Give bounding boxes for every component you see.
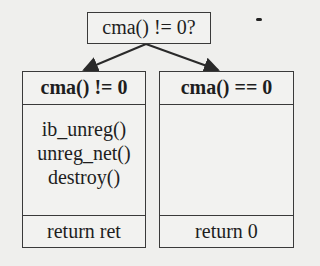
false-branch-header: cma() == 0 — [160, 72, 293, 105]
false-branch-body — [160, 105, 293, 216]
call-destroy: destroy() — [23, 165, 145, 189]
decision-node: cma() != 0? — [87, 12, 211, 44]
true-branch-footer: return ret — [23, 216, 145, 246]
true-branch-box: cma() != 0 ib_unreg() unreg_net() destro… — [22, 71, 146, 248]
ink-speck — [256, 18, 262, 21]
true-branch-header: cma() != 0 — [23, 72, 145, 105]
arrow-to-false-branch — [146, 44, 218, 70]
false-branch-box: cma() == 0 return 0 — [159, 71, 294, 248]
true-branch-body: ib_unreg() unreg_net() destroy() — [23, 105, 145, 216]
call-unreg-net: unreg_net() — [23, 141, 145, 165]
arrow-to-true-branch — [84, 44, 146, 70]
call-ib-unreg: ib_unreg() — [23, 117, 145, 141]
false-branch-footer: return 0 — [160, 216, 293, 246]
